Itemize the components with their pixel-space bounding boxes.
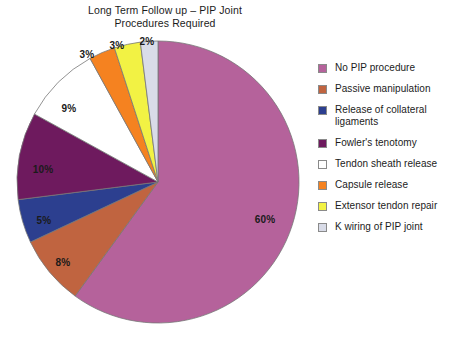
pie-value-label: 3% [110, 40, 125, 51]
pie-value-label: 10% [33, 164, 54, 175]
legend-swatch-icon [318, 160, 327, 169]
legend-swatch-icon [318, 202, 327, 211]
legend-item-label: K wiring of PIP joint [335, 221, 423, 233]
pie-chart-figure: Long Term Follow up – PIP Joint Procedur… [0, 0, 461, 337]
legend-swatch-icon [318, 223, 327, 232]
legend-item-label: Passive manipulation [335, 83, 431, 95]
legend-item[interactable]: Passive manipulation [318, 83, 461, 95]
pie-value-label: 3% [80, 49, 95, 60]
legend-item[interactable]: K wiring of PIP joint [318, 221, 461, 233]
chart-legend: No PIP procedurePassive manipulationRele… [318, 62, 461, 242]
legend-swatch-icon [318, 106, 327, 115]
legend-item-label: Capsule release [335, 179, 408, 191]
legend-item[interactable]: Fowler's tenotomy [318, 137, 461, 149]
pie-value-label: 5% [37, 215, 52, 226]
pie-value-label: 60% [255, 214, 276, 225]
legend-item[interactable]: Release of collateral ligaments [318, 104, 461, 127]
pie-value-label: 2% [140, 36, 155, 47]
legend-swatch-icon [318, 64, 327, 73]
pie-slice-group [17, 41, 299, 323]
legend-item-label: Fowler's tenotomy [335, 137, 417, 149]
legend-item-label: Extensor tendon repair [335, 200, 437, 212]
legend-item[interactable]: No PIP procedure [318, 62, 461, 74]
legend-swatch-icon [318, 181, 327, 190]
legend-item[interactable]: Extensor tendon repair [318, 200, 461, 212]
pie-value-label: 8% [56, 257, 71, 268]
legend-item-label: No PIP procedure [335, 62, 415, 74]
pie-plot-area: 60%8%5%10%9%3%3%2% [0, 0, 320, 337]
pie-value-label: 9% [62, 103, 77, 114]
legend-item-label: Release of collateral ligaments [335, 104, 461, 127]
legend-swatch-icon [318, 85, 327, 94]
legend-item[interactable]: Tendon sheath release [318, 158, 461, 170]
legend-item[interactable]: Capsule release [318, 179, 461, 191]
legend-item-label: Tendon sheath release [335, 158, 437, 170]
legend-swatch-icon [318, 139, 327, 148]
